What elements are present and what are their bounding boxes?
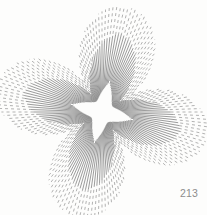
starburst-ray-dashed [172, 140, 200, 151]
starburst-figure [0, 0, 207, 215]
starburst-ray-dashed [178, 123, 207, 127]
starburst-ray-dashed [180, 132, 207, 139]
starburst-ray-dashed [180, 129, 207, 135]
starburst-ray-dashed [80, 66, 90, 87]
starburst-ray-dashed [165, 105, 198, 107]
starburst-ray-dashed [17, 63, 45, 79]
starburst-ray-dashed [76, 190, 83, 215]
starburst-ray-dashed [81, 40, 90, 71]
starburst-ray-dashed [0, 86, 24, 93]
starburst-ray-dashed [130, 14, 141, 42]
starburst-ray-dashed [104, 178, 105, 211]
starburst-ray-dashed [114, 136, 124, 157]
starburst-ray-dashed [124, 8, 132, 35]
starburst-ray-dashed [0, 93, 25, 98]
starburst-ray-dashed [60, 179, 73, 207]
starburst-ray-dashed [177, 120, 207, 123]
starburst-ray-dashed [7, 70, 35, 83]
starburst-ray-dashed [91, 187, 94, 215]
starburst-ray-dashed [134, 23, 149, 51]
starburst-ray-dashed [0, 82, 26, 90]
starburst-ray-dashed [30, 124, 61, 133]
starburst-ray-dashed [95, 16, 97, 49]
starburst-ray-dashed [140, 144, 165, 165]
starburst-ray-dashed [72, 188, 80, 215]
starburst-ray-dashed [38, 59, 63, 80]
starburst-ray-dashed [0, 101, 27, 104]
starburst-ray-dashed [178, 134, 205, 142]
starburst-ray-dashed [56, 124, 77, 134]
starburst-ray-dashed [49, 150, 70, 175]
starburst-ray-dashed [0, 108, 31, 109]
starburst-ray-dashed [107, 8, 109, 39]
starburst-ray-dashed [179, 126, 207, 131]
starburst-ray-dashed [108, 171, 111, 204]
starburst-ray-dashed [122, 7, 129, 34]
starburst-ray-dashed [104, 10, 105, 41]
starburst-ray-dashed [168, 109, 201, 110]
starburst-ray-dashed [92, 20, 95, 53]
starburst-ray-dashed [173, 114, 204, 115]
starburst-ray-dashed [53, 169, 69, 197]
plate-number: 213 [180, 188, 198, 199]
starburst-ray-dashed [116, 6, 121, 35]
starburst-ray-dashed [114, 153, 123, 184]
starburst-ray-dashed [106, 175, 108, 208]
starburst-ray-dashed [6, 116, 39, 118]
starburst-ray-dashed [169, 142, 197, 155]
starburst-ray-dashed [95, 185, 97, 215]
starburst-ray-dashed [135, 27, 151, 55]
starburst-ray-dashed [113, 6, 117, 35]
starburst-ray-dashed [175, 117, 206, 119]
starburst-ray-dashed [10, 118, 43, 121]
starburst-ray-dashed [83, 189, 88, 215]
starburst-ray-dashed [162, 144, 190, 159]
starburst-ray-dashed [126, 90, 147, 100]
book-page: Radiating starburst with concave four-po… [0, 0, 207, 215]
starburst-ray-dashed [4, 114, 37, 115]
starburst-ray-dashed [99, 14, 100, 47]
starburst-ray-dashed [87, 188, 91, 215]
starburst-ray-dashed [55, 172, 70, 200]
starburst-ray-dashed [98, 183, 99, 214]
starburst-ray-dashed [110, 7, 113, 37]
starburst-ray-dashed [62, 182, 73, 210]
starburst-ray-dashed [134, 48, 155, 73]
starburst-ray-dashed [4, 72, 32, 83]
starburst-ray-dashed [0, 90, 24, 96]
starburst-ray-dashed [143, 91, 174, 100]
starburst-ray-dashed [0, 105, 29, 107]
starburst-ray-dashed [80, 190, 86, 215]
starburst-ray-dashed [161, 102, 194, 105]
starburst-ray-dashed [13, 65, 41, 80]
starburst-ray-dashed [159, 145, 187, 161]
starburst-ray-dashed [132, 17, 145, 45]
starburst-ray-dashed [119, 7, 125, 35]
